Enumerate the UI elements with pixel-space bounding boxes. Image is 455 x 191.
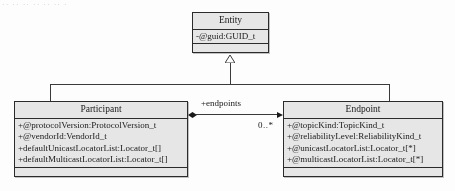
attributes-participant: +@protocolVersion:ProtocolVersion_t +@ve… <box>15 118 187 167</box>
class-box-entity[interactable]: Entity -@guid:GUID_t <box>192 12 269 53</box>
attribute-row: +defaultMulticastLocatorList:Locator_t[] <box>15 154 187 166</box>
association-multiplicity-label: 0..* <box>258 121 274 130</box>
class-name-participant: Participant <box>15 102 187 118</box>
generalization-branch-participant <box>50 84 51 101</box>
attributes-entity: -@guid:GUID_t <box>193 29 268 44</box>
association-arrowhead-icon <box>277 112 283 118</box>
attribute-row: +@reliabilityLevel:ReliabilityKind_t <box>284 131 442 143</box>
uml-class-diagram-canvas: ·· ·· ·· ·· ·· ·· ·· ·· Entity -@guid:GU… <box>0 0 455 191</box>
association-role-label: +endpoints <box>201 99 241 108</box>
association-line <box>196 114 278 115</box>
operations-endpoint <box>284 167 442 176</box>
attribute-row: +@multicastLocatorList:Locator_t[*] <box>284 154 442 166</box>
operations-participant <box>15 167 187 176</box>
class-box-endpoint[interactable]: Endpoint +@topicKind:TopicKind_t +@relia… <box>283 101 443 177</box>
class-name-endpoint: Endpoint <box>284 102 442 118</box>
attribute-row: +@vendorId:VendorId_t <box>15 131 187 143</box>
generalization-branch-endpoint <box>389 84 390 101</box>
generalization-stem <box>230 63 231 84</box>
attribute-row: -@guid:GUID_t <box>193 31 268 43</box>
attribute-row: +@topicKind:TopicKind_t <box>284 120 442 132</box>
attribute-row: +@protocolVersion:ProtocolVersion_t <box>15 120 187 132</box>
class-box-participant[interactable]: Participant +@protocolVersion:ProtocolVe… <box>14 101 188 177</box>
generalization-spine <box>50 84 389 85</box>
class-name-entity: Entity <box>193 13 268 29</box>
attribute-row: +defaultUnicastLocatorList:Locator_t[] <box>15 143 187 155</box>
generalization-triangle-icon <box>225 55 235 63</box>
attribute-row: +@unicastLocatorList:Locator_t[*] <box>284 143 442 155</box>
attributes-endpoint: +@topicKind:TopicKind_t +@reliabilityLev… <box>284 118 442 167</box>
scan-artifact-text: ·· ·· ·· ·· ·· ·· ·· ·· <box>2 0 68 9</box>
composition-diamond-icon <box>188 112 197 118</box>
operations-entity <box>193 43 268 52</box>
